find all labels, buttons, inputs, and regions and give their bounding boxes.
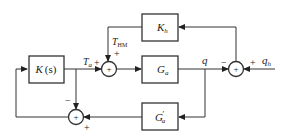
sign-top-left: +: [94, 57, 100, 68]
sign-right-left: −: [221, 57, 227, 68]
signal-qh: qh: [262, 54, 272, 68]
sign-top-top: +: [114, 48, 120, 59]
wire-q-branch: [179, 69, 205, 117]
sign-bottom-bottom: +: [84, 122, 90, 133]
label-k-s: K(s): [35, 63, 57, 76]
signal-q: q: [202, 54, 208, 66]
wire-sum-kh: [179, 27, 236, 61]
sign-bottom-top: −: [65, 95, 71, 106]
sum-right-symbol: +: [233, 64, 238, 74]
signal-ta: Ta: [83, 56, 93, 69]
block-diagram: + + + K(s) Ga Kh G′a Ta THM q qh + + − +…: [0, 0, 283, 140]
sum-top-symbol: +: [106, 64, 111, 74]
signal-thm: THM: [112, 36, 128, 48]
sign-right-right: +: [250, 57, 256, 68]
sum-bottom-symbol: +: [73, 112, 78, 122]
